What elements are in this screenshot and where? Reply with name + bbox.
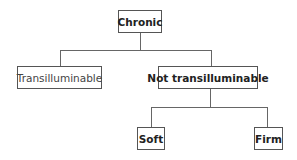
connector-level1-horizontal bbox=[60, 50, 212, 51]
decision-tree-diagram: Chronic Transilluminable Not transillumi… bbox=[0, 0, 297, 160]
connector-not-transilluminable-down bbox=[210, 88, 211, 108]
node-soft: Soft bbox=[137, 127, 165, 150]
node-transilluminable: Transilluminable bbox=[17, 66, 102, 89]
node-not-transilluminable: Not transilluminable bbox=[158, 66, 258, 89]
connector-to-transilluminable bbox=[60, 50, 61, 66]
connector-to-not-transilluminable bbox=[211, 50, 212, 66]
connector-to-soft bbox=[151, 107, 152, 127]
connector-to-firm bbox=[267, 107, 268, 127]
node-chronic: Chronic bbox=[118, 10, 162, 33]
connector-level2-horizontal bbox=[151, 107, 268, 108]
connector-root-down bbox=[140, 32, 141, 51]
node-firm: Firm bbox=[254, 127, 283, 150]
